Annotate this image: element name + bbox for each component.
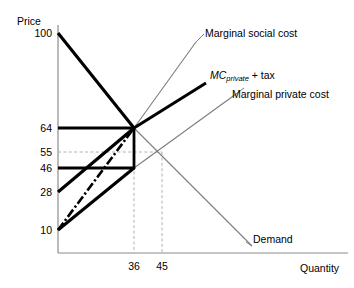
y-tick-10: 10 xyxy=(18,225,52,236)
marginal-social-cost-curve xyxy=(58,128,134,192)
marginal-private-cost-extension xyxy=(134,94,236,168)
mc-private-plus-tax-label-mc: MC xyxy=(210,69,226,81)
chart-canvas xyxy=(0,0,354,288)
marginal-social-cost-label: Marginal social cost xyxy=(205,28,297,39)
y-axis-title: Price xyxy=(17,16,41,27)
externality-tax-diagram: Price Quantity 100 64 55 46 28 10 36 45 … xyxy=(0,0,354,288)
y-tick-55: 55 xyxy=(18,147,52,158)
marginal-private-cost-label: Marginal private cost xyxy=(232,89,329,100)
x-axis-title: Quantity xyxy=(300,263,339,274)
marginal-private-cost-curve xyxy=(58,168,134,230)
msc-label-leader xyxy=(196,34,204,42)
mc-tax-label-leader xyxy=(134,83,206,128)
mc-private-plus-tax-label-sub: private xyxy=(226,74,249,83)
demand-curve-extension xyxy=(134,128,252,246)
mc-private-plus-tax-label: MCprivate + tax xyxy=(210,70,275,81)
x-tick-45: 45 xyxy=(149,261,175,272)
marginal-social-cost-extension xyxy=(134,42,196,128)
y-tick-46: 46 xyxy=(18,163,52,174)
y-tick-100: 100 xyxy=(18,28,52,39)
x-tick-36: 36 xyxy=(121,261,147,272)
y-tick-28: 28 xyxy=(18,187,52,198)
y-tick-64: 64 xyxy=(18,123,52,134)
demand-curve xyxy=(58,33,134,128)
demand-label: Demand xyxy=(253,234,293,245)
mc-private-plus-tax-label-suffix: + tax xyxy=(249,69,275,81)
